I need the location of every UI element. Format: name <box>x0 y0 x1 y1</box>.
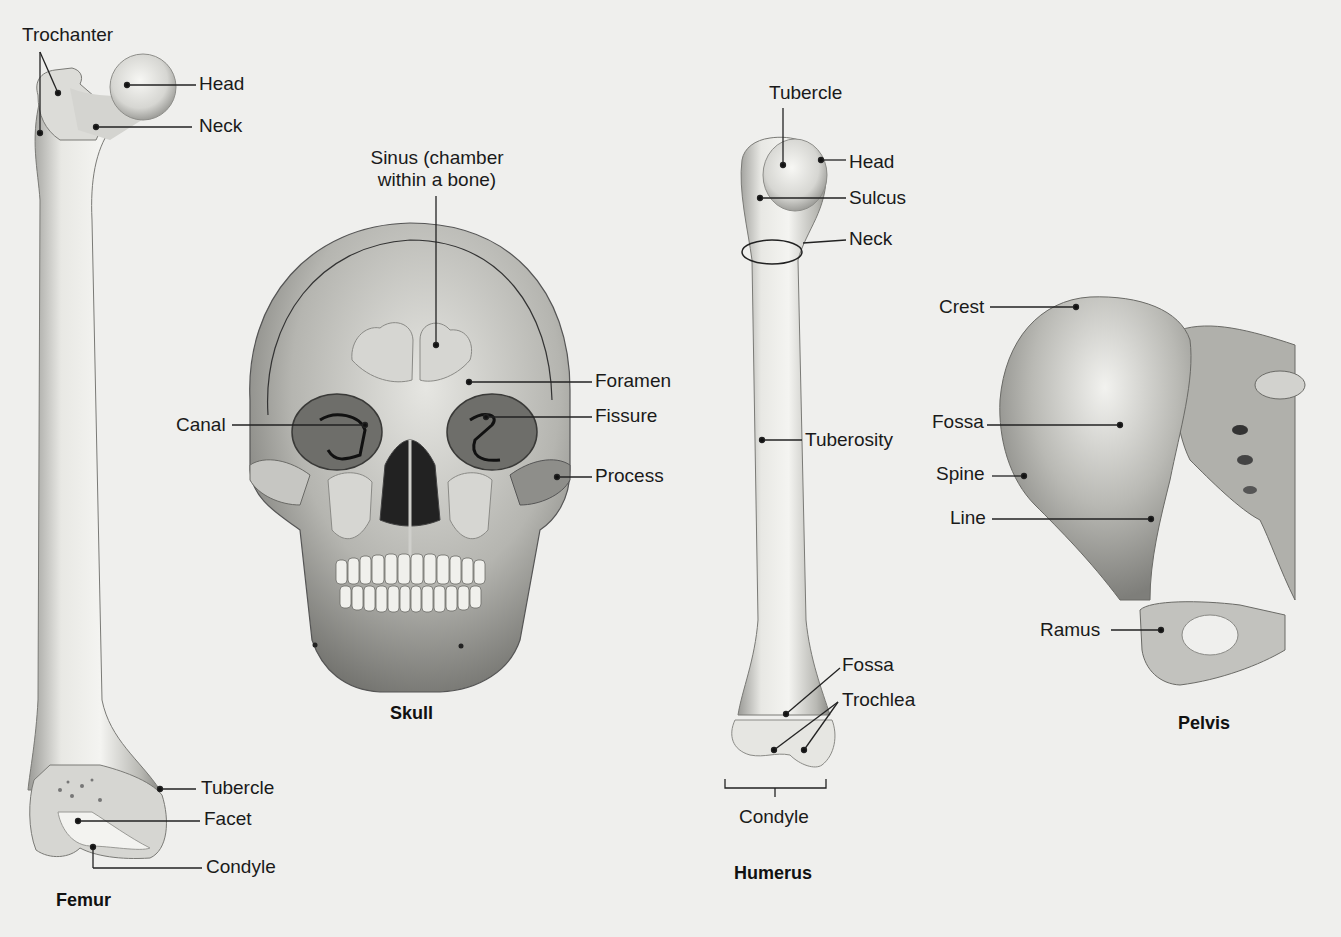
femur-label-facet: Facet <box>204 808 252 830</box>
pelvis-label-spine: Spine <box>936 463 985 485</box>
femur-label-head: Head <box>199 73 244 95</box>
humerus-label-head: Head <box>849 151 894 173</box>
humerus-title: Humerus <box>734 863 812 884</box>
skull-label-sinus-line-2: within a bone) <box>364 169 510 191</box>
humerus-illustration <box>732 137 835 767</box>
pelvis-label-ramus: Ramus <box>1040 619 1100 641</box>
humerus-label-sulcus: Sulcus <box>849 187 906 209</box>
humerus-label-tubercle: Tubercle <box>769 82 842 104</box>
humerus-label-trochlea: Trochlea <box>842 689 915 711</box>
femur-label-neck: Neck <box>199 115 242 137</box>
skull-label-foramen: Foramen <box>595 370 671 392</box>
skull-title: Skull <box>390 703 433 724</box>
bone-markings-figure: Trochanter Head Neck Tubercle Facet Cond… <box>0 0 1341 937</box>
humerus-label-tuberosity: Tuberosity <box>805 429 893 451</box>
femur-label-trochanter: Trochanter <box>22 24 113 46</box>
pelvis-label-line: Line <box>950 507 986 529</box>
skull-label-canal: Canal <box>176 414 226 436</box>
femur-label-condyle: Condyle <box>206 856 276 878</box>
femur-label-tubercle: Tubercle <box>201 777 274 799</box>
skull-label-sinus: Sinus (chamber within a bone) <box>364 147 510 191</box>
pelvis-title: Pelvis <box>1178 713 1230 734</box>
humerus-label-neck: Neck <box>849 228 892 250</box>
pelvis-label-crest: Crest <box>939 296 984 318</box>
femur-illustration <box>28 54 176 859</box>
pelvis-label-fossa: Fossa <box>932 411 984 433</box>
humerus-label-condyle: Condyle <box>739 806 809 828</box>
humerus-label-fossa: Fossa <box>842 654 894 676</box>
skull-label-fissure: Fissure <box>595 405 657 427</box>
skull-label-process: Process <box>595 465 664 487</box>
femur-title: Femur <box>56 890 111 911</box>
skull-label-sinus-line-1: Sinus (chamber <box>364 147 510 169</box>
skull-illustration <box>250 223 570 692</box>
